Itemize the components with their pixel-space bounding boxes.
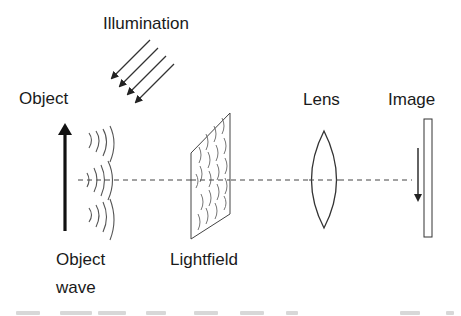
optical-diagram: Illumination Object Lens Image Object wa…	[0, 0, 461, 316]
object-wave-icon	[87, 126, 114, 240]
lightfield-label: Lightfield	[170, 250, 238, 269]
lens-icon	[312, 131, 337, 228]
object-wave-label-line2: wave	[56, 278, 96, 297]
image-label: Image	[388, 90, 435, 109]
illumination-arrows-icon	[112, 40, 174, 102]
lens-label: Lens	[303, 90, 340, 109]
object-wave-label-line1: Object	[56, 250, 105, 269]
image-plane-icon	[424, 119, 432, 237]
object-label: Object	[19, 89, 68, 108]
lightfield-plate-icon	[191, 113, 230, 239]
illumination-label: Illumination	[103, 14, 189, 33]
